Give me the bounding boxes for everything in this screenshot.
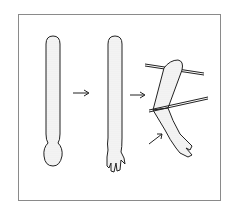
arm-modeling-illustration [0,0,232,215]
arrow-icon [130,92,145,98]
clay-cylinder [44,36,62,166]
shaped-arm [107,36,125,172]
bent-arm-with-wires [145,60,208,157]
arrow-icon [73,90,89,96]
